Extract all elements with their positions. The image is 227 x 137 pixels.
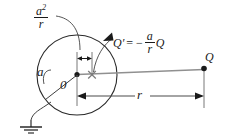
equation-denominator: r [145, 43, 155, 55]
image-distance-dimension [77, 56, 92, 60]
source-charge-point [201, 66, 207, 72]
image-distance-denominator: r [34, 18, 48, 30]
image-charge-leader [94, 38, 114, 72]
figure-container: a2 r Q′ = − a r Q a 0 r Q [0, 0, 227, 137]
ground-lead-line [31, 102, 51, 120]
distance-r-label: r [137, 88, 142, 101]
equation-factor: Q [156, 37, 165, 49]
axis-line [77, 70, 204, 75]
image-charge-equation: Q′ = − a r Q [113, 30, 165, 55]
sphere-radius-label: a [37, 65, 44, 78]
image-charge-leader-arrowhead [103, 33, 114, 42]
ground-icon [20, 120, 42, 133]
image-distance-exponent: 2 [42, 3, 46, 12]
equation-fraction: a r [145, 30, 155, 55]
image-distance-label: a2 r [34, 4, 48, 30]
origin-label: 0 [60, 78, 67, 91]
image-distance-leader [56, 16, 80, 50]
equation-lhs: Q′ [113, 37, 124, 49]
equation-sign: − [135, 37, 144, 49]
source-charge-label: Q [205, 51, 214, 63]
image-distance-numerator: a2 [34, 4, 48, 18]
radius-label-leader [43, 70, 51, 84]
equation-equals: = [125, 37, 134, 49]
image-distance-fraction: a2 r [34, 4, 48, 30]
